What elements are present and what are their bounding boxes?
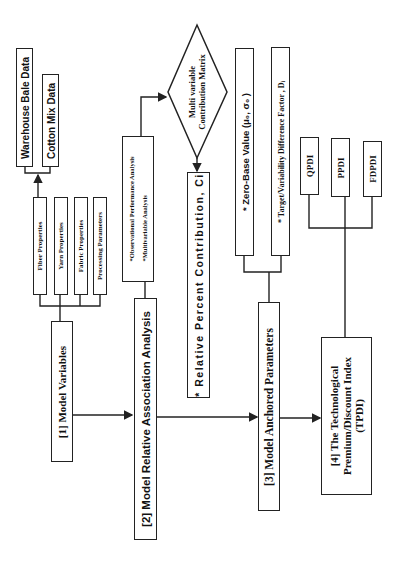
step1-model-variables-box: [1] Model Variables <box>51 321 73 462</box>
observational-analysis-item: *Observational Performance Analysis <box>125 156 138 261</box>
fabric-properties-label: Fabric Properties <box>77 220 85 273</box>
yarn-properties-label: Yarn Properties <box>57 222 65 270</box>
multivariable-analysis-item: *Multivariable Analysis <box>138 156 151 261</box>
zero-base-value-box: * Zero-Base Value (μ₀, σ₀ ) <box>235 48 254 256</box>
decision-line2: Contribution Matrix <box>198 54 208 129</box>
cotton-mix-data-box: Cotton Mix Data <box>42 74 59 167</box>
fdpdi-label: FDPDI <box>368 155 378 183</box>
decision-line1: Multi variable <box>188 54 198 129</box>
step4-line2: Premium/Discount Index <box>340 357 353 475</box>
target-variability-box: * Target/Variability Difference Factor ,… <box>271 47 290 256</box>
fabric-properties-box: Fabric Properties <box>74 197 88 295</box>
ppdi-box: PPDI <box>331 138 350 197</box>
step4-tpdi-box: [4] The Technological Premium/Discount I… <box>321 337 372 495</box>
relative-contribution-label: * Relative Percent Contribution, Ci <box>193 173 205 396</box>
zero-base-value-label: * Zero-Base Value (μ₀, σ₀ ) <box>239 93 250 211</box>
step3-anchored-parameters-box: [3] Model Anchored Parameters <box>258 302 280 511</box>
target-variability-label: * Target/Variability Difference Factor ,… <box>276 80 285 222</box>
warehouse-bale-data-label: Warehouse Bale Data <box>19 57 30 159</box>
qpdi-box: QPDI <box>300 137 319 195</box>
processing-parameters-label: Processing Parameters <box>96 212 104 280</box>
yarn-properties-box: Yarn Properties <box>54 197 68 295</box>
step4-line3: (TPDI) <box>353 357 366 475</box>
fdpdi-box: FDPDI <box>363 141 382 197</box>
step4-line1: [4] The Technological <box>328 357 341 475</box>
step2-label: [2] Model Relative Association Analysis <box>140 311 152 527</box>
cotton-mix-data-label: Cotton Mix Data <box>45 82 56 158</box>
ppdi-label: PPDI <box>336 157 346 178</box>
contribution-matrix-decision: Multi variable Contribution Matrix <box>168 25 227 158</box>
qpdi-label: QPDI <box>305 155 315 178</box>
step2-relative-association-box: [2] Model Relative Association Analysis <box>134 298 157 540</box>
fiber-properties-box: Fiber Properties <box>33 197 47 295</box>
analysis-methods-box: *Observational Performance Analysis *Mul… <box>122 136 154 282</box>
warehouse-bale-data-box: Warehouse Bale Data <box>16 48 33 167</box>
step1-label: [1] Model Variables <box>56 345 68 437</box>
processing-parameters-box: Processing Parameters <box>93 197 107 295</box>
step3-label: [3] Model Anchored Parameters <box>263 328 275 486</box>
relative-contribution-box: * Relative Percent Contribution, Ci <box>187 172 210 398</box>
fiber-properties-label: Fiber Properties <box>36 222 44 271</box>
